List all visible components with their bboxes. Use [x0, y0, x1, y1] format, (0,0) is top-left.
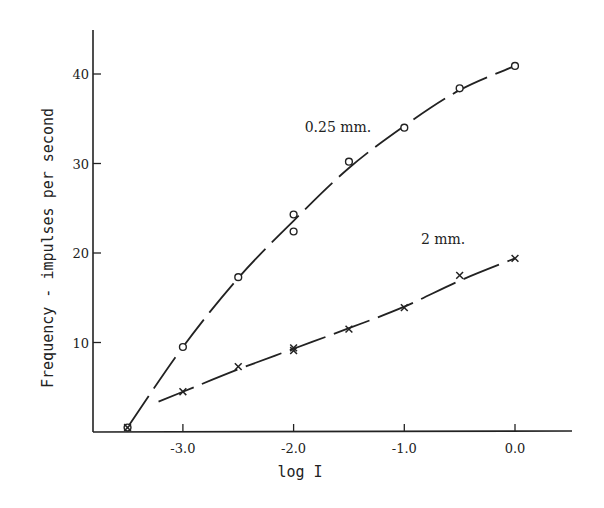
series-label-0-25mm: 0.25 mm. [305, 119, 372, 135]
circle-marker [401, 124, 408, 131]
x-axis-label: log I [277, 463, 322, 481]
circle-marker [512, 63, 519, 70]
x-tick-label: -2.0 [281, 441, 306, 456]
axes: 10203040-3.0-2.0-1.00.0 [72, 30, 572, 456]
series-label-2mm: 2 mm. [421, 231, 465, 247]
cross-marker [235, 363, 242, 370]
circle-marker [290, 211, 297, 218]
cross-marker [456, 272, 463, 279]
circle-marker [346, 158, 353, 165]
chart-container: 10203040-3.0-2.0-1.00.0 0.25 mm.2 mm. lo… [0, 0, 604, 508]
circle-marker [235, 274, 242, 281]
circle-marker [180, 344, 187, 351]
x-tick-label: -3.0 [170, 441, 195, 456]
circle-marker [456, 85, 463, 92]
x-tick-label: 0.0 [505, 441, 526, 456]
series-labels: 0.25 mm.2 mm. [305, 119, 466, 247]
line-chart: 10203040-3.0-2.0-1.00.0 0.25 mm.2 mm. lo… [0, 0, 604, 508]
y-axis-label: Frequency - impulses per second [39, 108, 57, 388]
y-tick-label: 10 [72, 336, 89, 351]
x-axis-line [93, 431, 572, 432]
y-tick-label: 20 [72, 246, 89, 261]
x-tick-label: -1.0 [392, 441, 417, 456]
circle-marker [290, 228, 297, 235]
y-tick-label: 30 [72, 157, 89, 172]
y-tick-label: 40 [72, 67, 89, 82]
curve-2mm [159, 258, 515, 401]
